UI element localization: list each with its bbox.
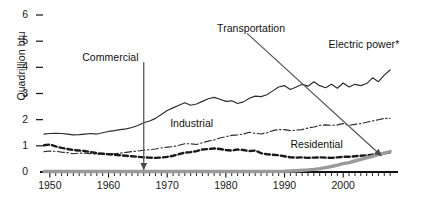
y-tick-label: 5	[14, 34, 28, 46]
series-line-transportation	[44, 152, 390, 172]
chart-container: Quadrillion btu 0123456 1950196019701980…	[0, 0, 424, 204]
x-tick-label: 1960	[89, 179, 129, 191]
data-series-group	[44, 70, 390, 172]
y-tick-label: 6	[14, 8, 28, 20]
x-tick-label: 1950	[30, 179, 70, 191]
annotation-arrows	[144, 33, 382, 169]
series-label-residential: Residential	[290, 138, 343, 150]
y-tick-label: 2	[14, 113, 28, 125]
y-tick-label: 3	[14, 87, 28, 99]
y-tick-label: 4	[14, 60, 28, 72]
x-tick-label: 1980	[206, 179, 246, 191]
series-label-industrial: Industrial	[170, 117, 213, 129]
y-tick-label: 0	[14, 165, 28, 177]
series-label-transportation: Transportation	[217, 22, 285, 34]
series-label-commercial: Commercial	[82, 51, 139, 63]
x-tick-label: 1990	[265, 179, 305, 191]
chart-plot-area	[0, 0, 424, 204]
y-axis-tick-marks	[36, 15, 43, 146]
x-tick-label: 2000	[323, 179, 363, 191]
y-tick-label: 1	[14, 139, 28, 151]
x-tick-label: 1970	[147, 179, 187, 191]
series-label-electric-power: Electric power*	[329, 38, 400, 50]
